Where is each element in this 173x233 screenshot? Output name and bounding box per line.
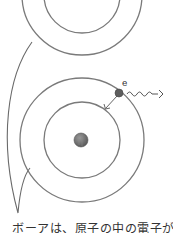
top-atom-outer-orbit [22,0,142,55]
top-atom [22,0,142,55]
electron-label: e [122,78,127,88]
photon-wave-icon [127,90,163,98]
bohr-atom-diagram: e [0,0,173,233]
nucleus [74,133,88,147]
electron [115,89,123,97]
caption-text: ボーアは、原子の中の電子がエネ [12,219,173,233]
top-atom-inner-orbit [44,0,120,33]
bottom-atom: e [20,78,163,202]
transition-arrow-icon [104,96,117,109]
callout-curve [7,42,32,213]
